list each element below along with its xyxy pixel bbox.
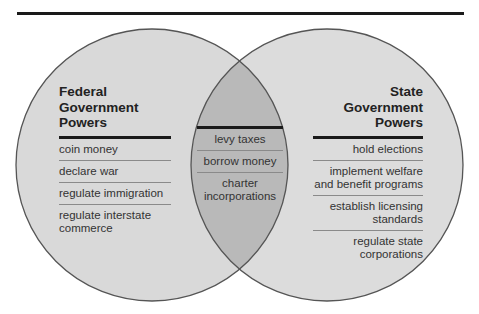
list-item: declare war — [59, 161, 171, 183]
list-item: hold elections — [313, 139, 423, 161]
list-item: charter incorporations — [197, 173, 283, 207]
state-title: State Government Powers — [313, 84, 423, 131]
list-item: levy taxes — [197, 129, 283, 151]
list-item: coin money — [59, 139, 171, 161]
list-item: establish licensing standards — [313, 196, 423, 231]
list-item: regulate interstate commerce — [59, 205, 171, 239]
shared-powers: levy taxes borrow money charter incorpor… — [197, 126, 283, 207]
list-item: borrow money — [197, 151, 283, 173]
federal-powers: Federal Government Powers coin money dec… — [59, 84, 171, 239]
list-item: regulate state corporations — [313, 231, 423, 265]
list-item: regulate immigration — [59, 183, 171, 205]
state-powers: State Government Powers hold elections i… — [313, 84, 423, 265]
list-item: implement welfare and benefit programs — [313, 161, 423, 196]
federal-title: Federal Government Powers — [59, 84, 171, 131]
